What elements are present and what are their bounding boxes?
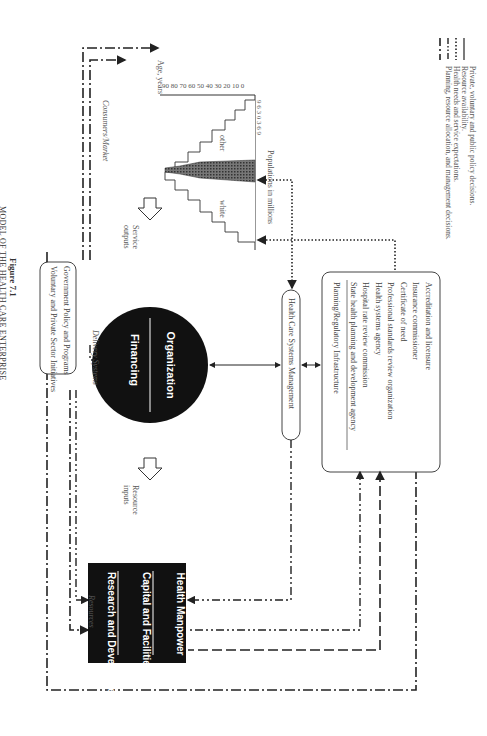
service-outputs-arrow [138, 198, 162, 220]
legend-item-planning: Planning, resource allocation, and manag… [444, 66, 452, 240]
consumers-market-label: Consumers/Market [101, 100, 110, 161]
planning-item: Accreditation and licensure [422, 282, 435, 431]
resource-item-manpower: Health Manpower [175, 572, 186, 656]
planning-item: Hospital rate review commission [359, 282, 372, 431]
planning-title: Planning/Regulatory Infrastructure [330, 282, 343, 394]
planning-item: Certificate of need [397, 282, 410, 431]
legend: Private, voluntary and public policy dec… [444, 66, 476, 240]
government-box-text: Government Policy and Programs Voluntary… [47, 266, 73, 392]
figure-title: MODEL OF THE HEALTH CARE ENTERPRISE [0, 206, 14, 380]
legend-item-health-needs: Health needs and service expectations. [452, 66, 460, 240]
planning-item: Professional standards review organizati… [384, 282, 397, 431]
planning-item: Insurance commissioner [409, 282, 422, 431]
planning-item: State health planning and development ag… [347, 282, 360, 431]
resource-inputs-arrow [138, 458, 162, 480]
service-outputs-label: Serviceoutputs [122, 225, 140, 249]
legend-item-policy: Private, voluntary and public policy dec… [468, 66, 476, 240]
pyramid-x-ticks: 9 6 3 0 3 6 9 [252, 100, 266, 135]
resources-label: Resources [87, 595, 96, 628]
resource-inputs-label: Resourceinputs [122, 485, 140, 515]
planning-list: Accreditation and licensure Insurance co… [347, 282, 435, 431]
resources-block [88, 563, 186, 663]
circle-financing: Financing [129, 330, 140, 390]
pyramid-white-label: white [218, 200, 227, 218]
planning-item: Health systems agency [372, 282, 385, 431]
delivery-systems-label: Delivery Systems [91, 330, 100, 385]
circle-organization: Organization [165, 325, 176, 405]
resource-item-research: Research and Development [106, 572, 117, 656]
pyramid-y-ticks: 90 80 70 60 50 40 30 20 10 0 [162, 82, 244, 90]
management-label: Health Care Systems Management [285, 298, 298, 409]
legend-item-resource: Resource availability. [460, 66, 468, 240]
resource-item-capital: Capital and Facilities [141, 572, 152, 656]
pyramid-x-label: Populations in millions [266, 150, 275, 224]
pyramid-other-label: other [218, 135, 227, 151]
